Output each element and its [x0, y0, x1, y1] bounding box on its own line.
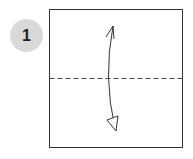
origami-diagram	[0, 0, 193, 159]
